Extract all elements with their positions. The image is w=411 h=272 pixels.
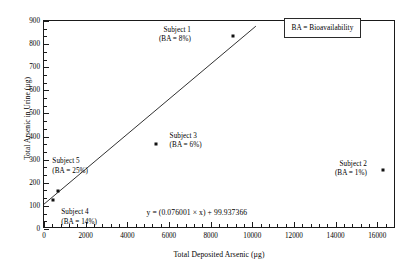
x-tick-mark	[294, 222, 295, 227]
y-tick-minor-mark	[44, 129, 47, 130]
y-tick-minor-mark	[44, 83, 47, 84]
data-point-subject-1	[231, 35, 234, 38]
regression-line	[44, 26, 256, 204]
x-tick-minor-mark	[319, 224, 320, 227]
y-tick-label: 300	[29, 156, 40, 164]
y-tick-minor-mark	[44, 144, 47, 145]
y-tick-minor-mark	[44, 121, 47, 122]
y-tick-label: 100	[29, 202, 40, 210]
y-tick-minor-mark	[44, 75, 47, 76]
figure: Total Arsenic in Urine (µg) 010020030040…	[0, 0, 411, 272]
y-tick-minor-mark	[44, 98, 47, 99]
x-tick-minor-mark	[286, 224, 287, 227]
x-tick-label: 2000	[78, 232, 92, 240]
y-tick-label: 400	[29, 133, 40, 141]
annotation-subject-3: Subject 3(BA = 6%)	[170, 132, 202, 151]
x-tick-minor-mark	[369, 224, 370, 227]
x-tick-minor-mark	[186, 224, 187, 227]
y-tick-mark	[44, 229, 49, 230]
x-tick-mark	[44, 222, 45, 227]
x-tick-mark	[252, 222, 253, 227]
y-tick-minor-mark	[44, 190, 47, 191]
y-tick-minor-mark	[44, 198, 47, 199]
annotation-subject-label: Subject 5	[52, 157, 88, 167]
x-tick-label: 6000	[162, 232, 176, 240]
x-tick-minor-mark	[352, 224, 353, 227]
annotation-ba-label: (BA = 1%)	[335, 169, 367, 179]
y-tick-label: 200	[29, 179, 40, 187]
x-tick-minor-mark	[202, 224, 203, 227]
annotation-subject-5: Subject 5(BA = 25%)	[52, 157, 88, 176]
x-tick-mark	[127, 222, 128, 227]
annotation-subject-1: Subject 1(BA = 8%)	[159, 26, 191, 45]
y-tick-label: 900	[29, 17, 40, 25]
x-tick-label: 8000	[203, 232, 217, 240]
annotation-ba-label: (BA = 14%)	[61, 218, 97, 228]
y-tick-label: 700	[29, 63, 40, 71]
annotation-subject-label: Subject 2	[335, 160, 367, 170]
x-tick-label: 0	[42, 232, 46, 240]
x-tick-minor-mark	[261, 224, 262, 227]
annotation-ba-label: (BA = 25%)	[52, 167, 88, 177]
y-tick-minor-mark	[44, 175, 47, 176]
regression-equation: y = (0.076001 × x) + 99.937366	[147, 208, 248, 217]
x-tick-minor-mark	[177, 224, 178, 227]
x-tick-minor-mark	[269, 224, 270, 227]
regression-equation-text: y = (0.076001 × x) + 99.937366	[147, 208, 248, 217]
annotation-subject-2: Subject 2(BA = 1%)	[335, 160, 367, 179]
x-tick-minor-mark	[219, 224, 220, 227]
annotation-subject-label: Subject 3	[170, 132, 202, 142]
x-tick-mark	[211, 222, 212, 227]
y-tick-minor-mark	[44, 152, 47, 153]
y-tick-minor-mark	[44, 29, 47, 30]
data-point-subject-4	[51, 199, 54, 202]
x-tick-minor-mark	[119, 224, 120, 227]
data-point-subject-2	[382, 169, 385, 172]
annotation-ba-label: (BA = 8%)	[159, 35, 191, 45]
annotation-subject-label: Subject 4	[61, 208, 97, 218]
legend-box: BA = Bioavailability	[284, 18, 362, 38]
y-tick-mark	[44, 160, 49, 161]
annotation-subject-4: Subject 4(BA = 14%)	[61, 208, 97, 227]
y-tick-mark	[44, 44, 49, 45]
y-tick-mark	[44, 206, 49, 207]
x-tick-minor-mark	[302, 224, 303, 227]
x-tick-minor-mark	[152, 224, 153, 227]
y-tick-label: 500	[29, 109, 40, 117]
x-tick-minor-mark	[52, 224, 53, 227]
x-tick-minor-mark	[144, 224, 145, 227]
x-tick-mark	[336, 222, 337, 227]
x-tick-minor-mark	[102, 224, 103, 227]
x-tick-label: 14000	[327, 232, 345, 240]
x-tick-minor-mark	[327, 224, 328, 227]
y-tick-mark	[44, 90, 49, 91]
x-tick-minor-mark	[161, 224, 162, 227]
annotation-ba-label: (BA = 6%)	[170, 141, 202, 151]
x-tick-minor-mark	[111, 224, 112, 227]
y-tick-label: 0	[36, 225, 40, 233]
x-tick-minor-mark	[277, 224, 278, 227]
x-tick-minor-mark	[244, 224, 245, 227]
x-tick-minor-mark	[394, 224, 395, 227]
x-tick-minor-mark	[227, 224, 228, 227]
y-tick-minor-mark	[44, 106, 47, 107]
y-tick-minor-mark	[44, 52, 47, 53]
y-tick-label: 800	[29, 40, 40, 48]
data-point-subject-5	[56, 190, 59, 193]
x-tick-minor-mark	[311, 224, 312, 227]
y-tick-mark	[44, 137, 49, 138]
x-tick-minor-mark	[194, 224, 195, 227]
y-tick-mark	[44, 183, 49, 184]
data-point-subject-3	[155, 142, 158, 145]
x-tick-minor-mark	[236, 224, 237, 227]
y-tick-mark	[44, 21, 49, 22]
y-tick-mark	[44, 113, 49, 114]
x-tick-label: 16000	[368, 232, 386, 240]
x-tick-minor-mark	[361, 224, 362, 227]
annotation-subject-label: Subject 1	[159, 26, 191, 36]
plot-area: 0100200300400500600700800900 02000400060…	[43, 20, 395, 228]
x-tick-minor-mark	[136, 224, 137, 227]
x-tick-label: 4000	[120, 232, 134, 240]
y-tick-minor-mark	[44, 36, 47, 37]
x-tick-label: 10000	[243, 232, 261, 240]
